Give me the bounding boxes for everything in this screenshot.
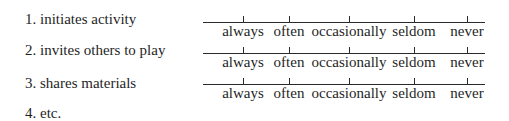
scale-tick [414, 78, 415, 84]
scale-option-never: never [450, 86, 483, 101]
scale-option-often: often [274, 55, 305, 70]
scale-tick [467, 16, 468, 22]
rating-scale-3: alwaysoftenoccasionallyseldomnever [203, 84, 485, 114]
scale-option-occasionally: occasionally [312, 86, 387, 101]
scale-option-always: always [222, 86, 264, 101]
scale-option-never: never [450, 24, 483, 39]
scale-option-always: always [222, 55, 264, 70]
scale-tick [414, 16, 415, 22]
scale-option-seldom: seldom [392, 24, 435, 39]
scale-tick [467, 47, 468, 53]
scale-option-occasionally: occasionally [312, 24, 387, 39]
scale-tick [289, 78, 290, 84]
scale-option-often: often [274, 24, 305, 39]
rating-scale-2: alwaysoftenoccasionallyseldomnever [203, 53, 485, 83]
scale-tick [467, 78, 468, 84]
item-1-label: 1. initiates activity [25, 12, 136, 27]
scale-tick [349, 47, 350, 53]
scale-tick [243, 78, 244, 84]
scale-tick [243, 16, 244, 22]
scale-option-always: always [222, 24, 264, 39]
scale-option-occasionally: occasionally [312, 55, 387, 70]
scale-option-seldom: seldom [392, 86, 435, 101]
rating-scale-1: alwaysoftenoccasionallyseldomnever [203, 22, 485, 52]
scale-tick [349, 16, 350, 22]
item-3-label: 3. shares materials [25, 76, 136, 91]
scale-option-never: never [450, 55, 483, 70]
scale-tick [289, 47, 290, 53]
item-4-label: 4. etc. [25, 106, 61, 121]
scale-option-seldom: seldom [392, 55, 435, 70]
scale-tick [289, 16, 290, 22]
scale-tick [243, 47, 244, 53]
scale-tick [349, 78, 350, 84]
scale-tick [414, 47, 415, 53]
scale-option-often: often [274, 86, 305, 101]
item-2-label: 2. invites others to play [25, 43, 165, 58]
